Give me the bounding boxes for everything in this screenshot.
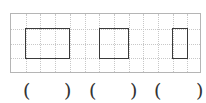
answer-3-close-paren: ) [196,80,203,100]
grid-paper [10,13,201,73]
rectangle-shape-1 [25,28,70,59]
answer-1-close-paren: ) [64,80,71,100]
answer-2-open-paren: ( [89,80,96,100]
answer-3-open-paren: ( [154,80,161,100]
answer-1-open-paren: ( [23,80,30,100]
square-shape-2 [99,28,129,59]
answer-2-close-paren: ) [130,80,137,100]
rectangle-shape-3 [172,28,188,59]
